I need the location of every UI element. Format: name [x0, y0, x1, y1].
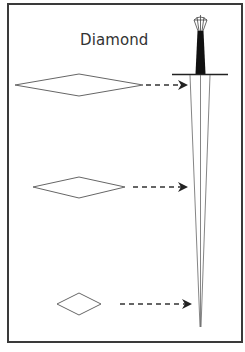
grip: [196, 31, 206, 74]
diamond-section-bottom: [57, 293, 101, 315]
blade: [190, 75, 210, 327]
pommel-icon: [194, 15, 207, 31]
sword-illustration: [172, 15, 228, 327]
diamond-section-top: [15, 74, 143, 96]
diagram-canvas: [0, 0, 245, 352]
diamond-section-middle: [33, 177, 125, 198]
